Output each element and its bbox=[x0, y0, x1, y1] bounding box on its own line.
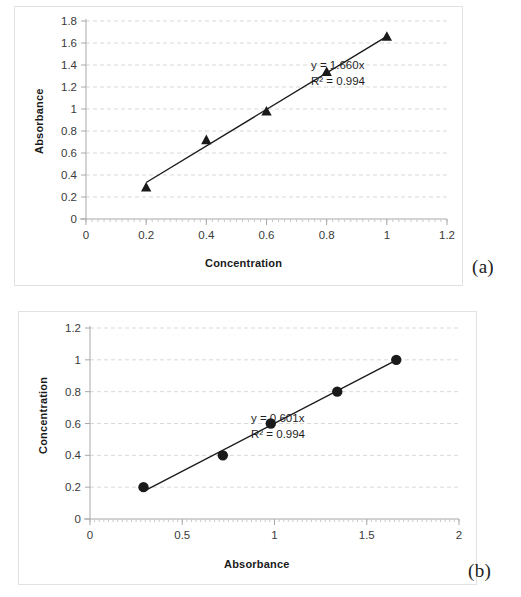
y-tick-label: 0 bbox=[75, 513, 81, 525]
y-tick-label: 0 bbox=[71, 213, 77, 225]
y-tick-label: 0.4 bbox=[65, 449, 82, 461]
x-tick-label: 0.6 bbox=[259, 229, 275, 241]
y-tick-label: 0.4 bbox=[61, 169, 78, 181]
data-point-marker bbox=[138, 482, 148, 492]
chart-panel-a: 00.20.40.60.811.21.41.61.800.20.40.60.81… bbox=[14, 6, 463, 286]
chart-panel-b: 00.20.40.60.811.200.511.52y = 0.601xR² =… bbox=[18, 311, 477, 585]
x-tick-label: 0 bbox=[87, 529, 93, 541]
chart-b-y-axis-title: Concentration bbox=[37, 377, 49, 454]
trendline-equation-label: y = 0.601x bbox=[251, 412, 305, 424]
y-tick-label: 1.8 bbox=[61, 15, 77, 27]
chart-a-x-axis-title: Concentration bbox=[205, 257, 282, 269]
y-tick-label: 1.4 bbox=[61, 59, 78, 71]
panel-caption-b: (b) bbox=[468, 560, 491, 582]
chart-a-canvas: 00.20.40.60.811.21.41.61.800.20.40.60.81… bbox=[15, 7, 462, 285]
data-point-marker bbox=[218, 450, 228, 460]
x-tick-label: 0.5 bbox=[174, 529, 190, 541]
data-point-marker bbox=[201, 135, 211, 145]
r-squared-label: R² = 0.994 bbox=[311, 75, 366, 87]
chart-b-x-axis-title: Absorbance bbox=[224, 558, 290, 570]
x-tick-label: 1.2 bbox=[439, 229, 455, 241]
x-tick-label: 1.5 bbox=[359, 529, 375, 541]
x-tick-label: 2 bbox=[456, 529, 462, 541]
data-point-marker bbox=[391, 355, 401, 365]
x-tick-label: 1 bbox=[271, 529, 277, 541]
y-tick-label: 0.2 bbox=[65, 481, 81, 493]
y-tick-label: 0.8 bbox=[61, 125, 77, 137]
y-tick-label: 1 bbox=[75, 354, 81, 366]
x-tick-label: 0 bbox=[83, 229, 89, 241]
x-tick-label: 1 bbox=[384, 229, 390, 241]
y-tick-label: 1.6 bbox=[61, 37, 77, 49]
x-tick-label: 0.2 bbox=[138, 229, 154, 241]
data-point-marker bbox=[382, 31, 392, 41]
chart-a-y-axis-title: Absorbance bbox=[33, 88, 45, 154]
panel-caption-a: (a) bbox=[472, 256, 494, 278]
chart-b-canvas: 00.20.40.60.811.200.511.52y = 0.601xR² =… bbox=[19, 312, 476, 584]
data-point-marker bbox=[141, 182, 151, 192]
x-tick-label: 0.8 bbox=[319, 229, 335, 241]
y-tick-label: 1 bbox=[71, 103, 77, 115]
r-squared-label: R² = 0.994 bbox=[251, 428, 306, 440]
data-point-marker bbox=[332, 386, 342, 396]
y-tick-label: 1.2 bbox=[61, 81, 77, 93]
y-tick-label: 0.2 bbox=[61, 191, 77, 203]
x-tick-label: 0.4 bbox=[198, 229, 215, 241]
y-tick-label: 1.2 bbox=[65, 322, 81, 334]
y-tick-label: 0.6 bbox=[61, 147, 77, 159]
y-tick-label: 0.8 bbox=[65, 386, 81, 398]
trendline-equation-label: y = 1.660x bbox=[311, 59, 365, 71]
y-tick-label: 0.6 bbox=[65, 418, 81, 430]
